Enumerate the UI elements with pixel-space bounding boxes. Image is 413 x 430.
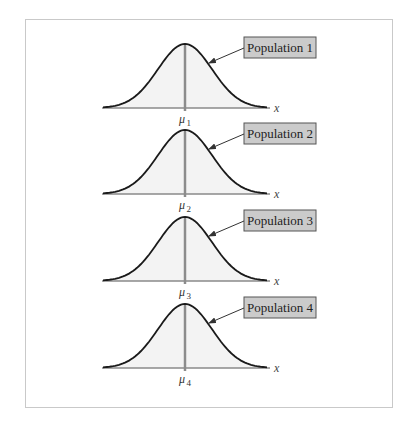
- mean-label: μ: [178, 198, 185, 212]
- x-axis-label: x: [273, 274, 280, 288]
- mean-label: μ: [178, 372, 185, 386]
- pointer-arrow-icon: [209, 221, 244, 236]
- x-axis-label: x: [273, 361, 280, 375]
- normal-distributions-figure: xμ1Population 1xμ2Population 2xμ3Populat…: [0, 0, 413, 430]
- mean-label-subscript: 4: [187, 378, 192, 388]
- distribution-panel: xμ4Population 4: [102, 297, 316, 388]
- pointer-arrow-icon: [209, 134, 244, 149]
- distribution-panel: xμ2Population 2: [102, 123, 316, 214]
- mean-label-subscript: 1: [187, 118, 192, 128]
- population-label: Population 3: [247, 213, 313, 228]
- pointer-arrow-icon: [209, 308, 244, 323]
- mean-label-subscript: 2: [187, 204, 192, 214]
- population-label: Population 4: [247, 300, 314, 315]
- x-axis-label: x: [273, 101, 280, 115]
- distribution-panel: xμ3Population 3: [102, 210, 316, 301]
- x-axis-label: x: [273, 187, 280, 201]
- mean-label: μ: [178, 285, 185, 299]
- pointer-arrow-icon: [209, 48, 244, 63]
- population-label: Population 2: [247, 126, 313, 141]
- mean-label: μ: [178, 112, 185, 126]
- population-label: Population 1: [247, 40, 313, 55]
- mean-label-subscript: 3: [187, 291, 192, 301]
- distribution-panel: xμ1Population 1: [102, 37, 316, 128]
